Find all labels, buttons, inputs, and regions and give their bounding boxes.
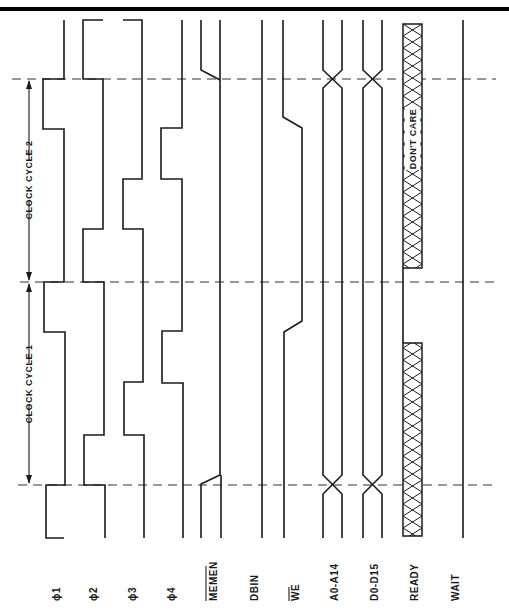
signal-label-dbin: DBIN <box>249 575 260 601</box>
ready-dont-care-lower <box>403 343 422 536</box>
phi3-waveform <box>123 20 144 538</box>
address-bus-waveform <box>323 20 342 538</box>
address-bus-waveform-b <box>323 20 342 538</box>
signal-label-phi2: ϕ2 <box>88 587 99 601</box>
clock-cycle-1-dimension: CLOCK CYCLE 1 <box>24 283 34 484</box>
signal-label-data: D0-D15 <box>369 564 380 601</box>
signal-label-memen: MEMEN <box>208 561 219 601</box>
signal-label-phi4: ϕ4 <box>166 587 177 601</box>
clock-cycle-1-label: CLOCK CYCLE 1 <box>24 344 34 423</box>
data-bus-waveform-b <box>363 20 382 538</box>
signal-label-address: A0-A14 <box>329 564 340 601</box>
clock-cycle-2-label: CLOCK CYCLE 2 <box>24 140 34 219</box>
memen-waveform-left <box>201 20 220 80</box>
phi1-waveform <box>43 20 65 538</box>
phi2-waveform <box>83 20 105 538</box>
signal-label-ready: READY <box>409 563 420 601</box>
memen-waveform-right <box>201 20 220 538</box>
phi4-waveform <box>161 20 183 538</box>
clock-cycle-2-dimension: CLOCK CYCLE 2 <box>24 80 34 281</box>
signal-label-wait: WAIT <box>450 574 461 601</box>
we-waveform <box>283 20 302 538</box>
timing-diagram: CLOCK CYCLE 2 CLOCK CYCLE 1 DON'T CARE ϕ… <box>0 0 509 614</box>
data-bus-waveform <box>363 20 382 538</box>
dont-care-label: DON'T CARE <box>408 109 418 170</box>
signal-label-we: WE <box>290 584 301 601</box>
signal-label-phi3: ϕ3 <box>127 587 138 601</box>
top-border <box>0 7 509 11</box>
signal-label-phi1: ϕ1 <box>51 587 62 601</box>
